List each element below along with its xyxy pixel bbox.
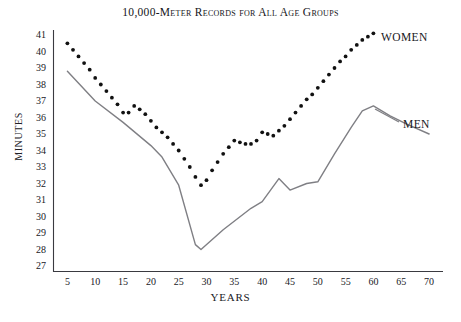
women-data-point bbox=[333, 66, 337, 70]
women-data-point bbox=[166, 135, 170, 139]
men-line bbox=[67, 71, 429, 249]
women-data-point bbox=[177, 149, 181, 153]
women-data-point bbox=[227, 145, 231, 149]
women-data-point bbox=[88, 68, 92, 72]
women-data-point bbox=[110, 96, 114, 100]
women-data-point bbox=[93, 76, 97, 80]
women-data-point bbox=[338, 60, 342, 64]
women-data-point bbox=[271, 134, 275, 138]
women-data-point bbox=[260, 130, 264, 134]
women-data-point bbox=[244, 142, 248, 146]
women-data-point bbox=[238, 140, 242, 144]
women-data-point bbox=[372, 31, 376, 35]
women-data-point bbox=[77, 55, 81, 59]
women-data-point bbox=[155, 126, 159, 130]
women-data-point bbox=[188, 165, 192, 169]
women-data-point bbox=[116, 102, 120, 106]
women-data-point bbox=[99, 83, 103, 87]
women-data-point bbox=[105, 89, 109, 93]
women-data-point bbox=[305, 97, 309, 101]
women-data-point bbox=[322, 79, 326, 83]
women-data-point bbox=[205, 178, 209, 182]
women-data-point bbox=[299, 104, 303, 108]
women-data-point bbox=[149, 119, 153, 123]
women-data-point bbox=[138, 107, 142, 111]
women-data-point bbox=[182, 157, 186, 161]
women-data-point bbox=[355, 43, 359, 47]
women-data-point bbox=[349, 48, 353, 52]
women-data-point bbox=[310, 93, 314, 97]
chart-page: 10,000-Meter Records for All Age Groups … bbox=[0, 0, 461, 322]
women-data-point bbox=[344, 55, 348, 59]
women-data-point bbox=[121, 111, 125, 115]
women-data-point bbox=[210, 168, 214, 172]
women-data-point bbox=[316, 86, 320, 90]
series-label-women: WOMEN bbox=[381, 31, 428, 43]
women-data-point bbox=[283, 124, 287, 128]
series-men bbox=[67, 71, 429, 249]
women-data-point bbox=[277, 129, 281, 133]
women-data-point bbox=[143, 112, 147, 116]
women-data-point bbox=[255, 139, 259, 143]
women-data-point bbox=[127, 111, 131, 115]
women-data-point bbox=[171, 142, 175, 146]
women-data-point bbox=[266, 132, 270, 136]
women-data-point bbox=[294, 111, 298, 115]
women-data-point bbox=[71, 48, 75, 52]
women-data-point bbox=[366, 35, 370, 39]
women-data-point bbox=[132, 104, 136, 108]
series-label-men: MEN bbox=[403, 118, 430, 130]
women-data-point bbox=[360, 38, 364, 42]
plot-area bbox=[0, 0, 461, 322]
women-data-point bbox=[216, 160, 220, 164]
women-data-point bbox=[199, 183, 203, 187]
men-leader-line bbox=[375, 109, 399, 122]
women-data-point bbox=[160, 130, 164, 134]
women-data-point bbox=[82, 61, 86, 65]
women-data-point bbox=[327, 73, 331, 77]
women-data-point bbox=[232, 139, 236, 143]
women-data-point bbox=[66, 41, 70, 45]
women-data-point bbox=[249, 142, 253, 146]
women-data-point bbox=[194, 175, 198, 179]
women-data-point bbox=[288, 117, 292, 121]
women-data-point bbox=[221, 152, 225, 156]
